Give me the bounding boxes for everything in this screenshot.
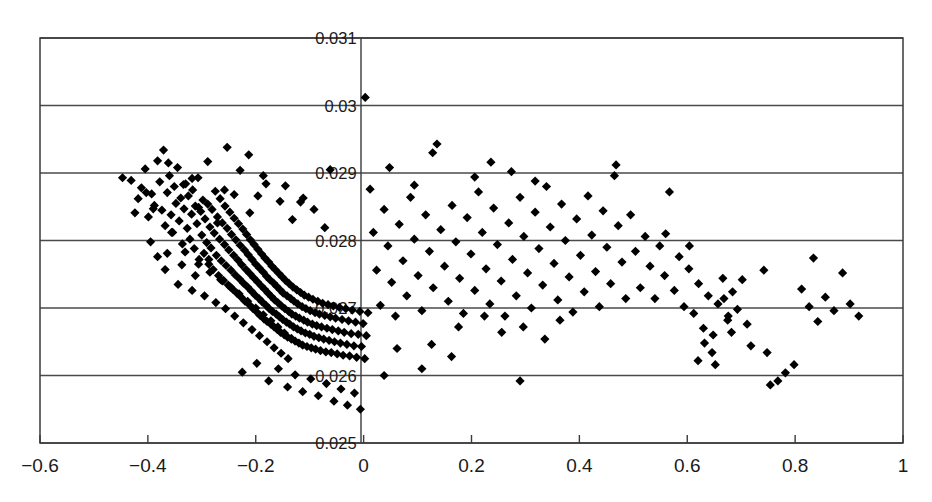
chart-canvas: 0.0250.0260.0270.0280.0290.030.031 −0.6−… [0, 0, 932, 502]
x-tick-label-0.8: 0.8 [782, 455, 808, 476]
x-tick-label-0: 0 [358, 455, 369, 476]
x-tick-label-0.2: 0.2 [458, 455, 484, 476]
y-tick-label-0.026: 0.026 [315, 367, 356, 385]
x-tick-label-0.6: 0.6 [674, 455, 700, 476]
y-tick-label-0.025: 0.025 [315, 434, 356, 452]
x-tick-label-group: −0.6−0.4−0.200.20.40.60.81 [21, 455, 908, 476]
y-tick-label-0.028: 0.028 [315, 232, 356, 250]
x-tick-label--0.6: −0.6 [21, 455, 59, 476]
x-tick-label-1: 1 [898, 455, 909, 476]
x-tick-label--0.4: −0.4 [129, 455, 167, 476]
y-tick-label-0.03: 0.03 [325, 97, 357, 115]
x-tick-label--0.2: −0.2 [237, 455, 275, 476]
y-tick-label-0.029: 0.029 [315, 164, 356, 182]
scatter-chart: 0.0250.0260.0270.0280.0290.030.031 −0.6−… [0, 0, 932, 502]
y-tick-label-0.031: 0.031 [315, 29, 356, 47]
x-tick-label-0.4: 0.4 [566, 455, 593, 476]
